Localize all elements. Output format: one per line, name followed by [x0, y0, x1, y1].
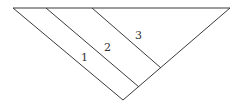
region-label-2: 2: [104, 41, 111, 54]
divider-line-2: [92, 8, 161, 68]
triangle-diagram: 1 2 3: [0, 0, 240, 105]
outer-triangle: [13, 8, 230, 100]
region-label-3: 3: [135, 29, 142, 42]
region-label-1: 1: [81, 51, 88, 64]
